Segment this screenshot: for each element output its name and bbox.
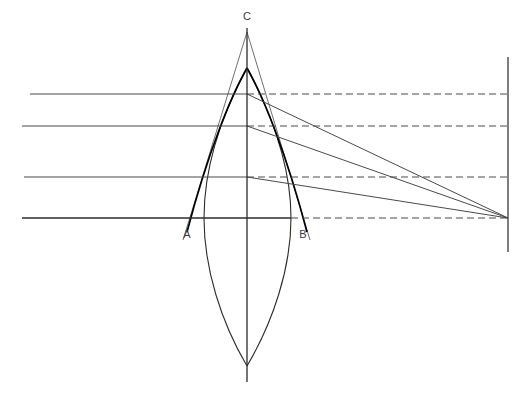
optics-ray-diagram: C A B xyxy=(0,0,531,410)
ideal-profile-left xyxy=(187,68,247,232)
label-b: B xyxy=(299,228,306,240)
refracted-ray-1 xyxy=(247,94,508,218)
refracted-ray-3 xyxy=(247,177,508,218)
label-a: A xyxy=(183,228,191,240)
ideal-profile-right xyxy=(247,68,307,232)
figure-canvas: C A B xyxy=(0,0,531,410)
label-c: C xyxy=(243,10,251,22)
